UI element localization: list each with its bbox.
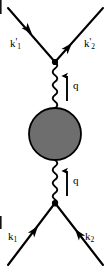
label-incoming-momentum-k2: k2: [85, 231, 94, 244]
feynman-diagram-figure: k'1 k'2 k1 k2 q q: [0, 0, 107, 273]
label-outgoing-momentum-k1-prime: k'1: [10, 37, 21, 50]
vertex-bottom: [52, 200, 58, 206]
label-outgoing-momentum-k2-prime: k'2: [84, 37, 95, 50]
label-k1-prime-subscript: 1: [17, 42, 21, 51]
page-edge-rule: [0, 0, 2, 229]
fermion-line-outgoing-left: [8, 8, 55, 62]
vertex-top: [52, 59, 58, 65]
label-incoming-momentum-k1: k1: [8, 231, 17, 244]
fermion-line-incoming-right: [55, 203, 103, 265]
photon-propagator-lower: [53, 160, 58, 206]
label-momentum-transfer-upper: q: [73, 80, 79, 91]
label-momentum-transfer-lower: q: [73, 175, 79, 186]
label-k2-subscript: 2: [91, 235, 95, 244]
fermion-line-outgoing-right: [55, 8, 103, 62]
label-k2-prime-subscript: 2: [91, 42, 95, 51]
interaction-blob: [29, 108, 81, 160]
photon-propagator-upper: [53, 62, 58, 108]
label-k1-subscript: 1: [14, 235, 18, 244]
